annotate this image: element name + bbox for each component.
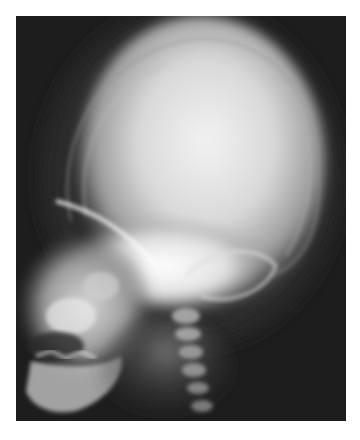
image-frame [0,0,360,440]
maxilla [46,298,96,334]
skull-radiograph [16,16,346,421]
radiograph-canvas [16,16,346,421]
orbit-region [83,272,119,300]
